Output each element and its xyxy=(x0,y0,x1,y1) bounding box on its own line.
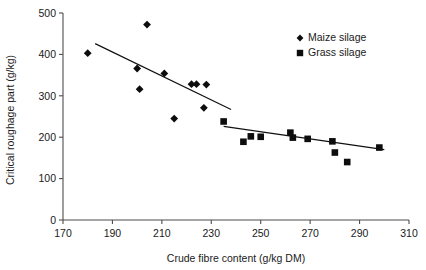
x-tick-label: 270 xyxy=(301,227,319,239)
x-axis-title: Crude fibre content (g/kg DM) xyxy=(167,252,305,264)
x-tick-label: 210 xyxy=(153,227,171,239)
data-point-grass xyxy=(344,159,351,166)
data-point-grass xyxy=(304,136,311,143)
x-axis-ticks: 170190210230250270290310 xyxy=(54,220,418,239)
chart-container: 0100200300400500 17019021023025027029031… xyxy=(0,0,426,270)
data-point-maize xyxy=(143,21,151,29)
y-tick-label: 300 xyxy=(38,90,56,102)
x-tick-label: 190 xyxy=(104,227,122,239)
data-point-grass xyxy=(376,144,383,151)
data-point-grass xyxy=(220,118,227,125)
data-point-grass xyxy=(290,134,297,141)
trend-line-maize-silage xyxy=(95,44,231,110)
data-point-maize xyxy=(136,85,144,93)
data-point-grass xyxy=(332,149,339,156)
legend-marker-maize xyxy=(297,35,304,42)
data-point-maize xyxy=(202,81,210,89)
y-tick-label: 0 xyxy=(50,214,56,226)
data-point-grass xyxy=(329,138,336,145)
axes xyxy=(63,13,409,220)
y-tick-label: 200 xyxy=(38,131,56,143)
trend-lines xyxy=(95,44,384,150)
x-tick-label: 250 xyxy=(252,227,270,239)
data-point-maize xyxy=(170,115,178,123)
data-point-maize xyxy=(84,49,92,57)
data-point-grass xyxy=(240,138,247,145)
data-point-grass xyxy=(257,133,264,140)
data-point-grass xyxy=(248,133,255,140)
legend-label-0: Maize silage xyxy=(308,31,367,43)
legend-label-1: Grass silage xyxy=(308,46,367,58)
y-tick-label: 500 xyxy=(38,7,56,19)
y-axis-ticks: 0100200300400500 xyxy=(38,7,63,226)
data-point-maize xyxy=(200,104,208,112)
x-tick-label: 170 xyxy=(54,227,72,239)
x-tick-label: 310 xyxy=(400,227,418,239)
legend-marker-grass xyxy=(297,50,303,56)
x-tick-label: 290 xyxy=(351,227,369,239)
y-tick-label: 100 xyxy=(38,172,56,184)
scatter-plot: 0100200300400500 17019021023025027029031… xyxy=(0,0,426,270)
x-tick-label: 230 xyxy=(203,227,221,239)
legend: Maize silageGrass silage xyxy=(297,31,367,58)
y-axis-title: Critical roughage part (g/kg) xyxy=(4,55,16,185)
y-tick-label: 400 xyxy=(38,48,56,60)
data-point-maize xyxy=(193,80,201,88)
